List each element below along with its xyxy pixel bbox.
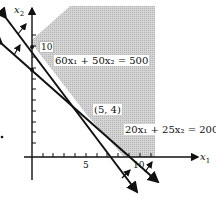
x-tick-10: 10	[133, 160, 144, 170]
vertex-label: (5, 4)	[93, 104, 122, 115]
constraint-label-1: 60x₁ + 50x₂ = 500	[54, 55, 149, 66]
lp-graph	[0, 0, 216, 198]
y-tick-10: 10	[39, 41, 54, 53]
x-tick-5: 5	[83, 160, 89, 170]
constraint-label-2: 20x₁ + 25x₂ = 200	[124, 124, 216, 135]
y-axis-label: x2	[14, 4, 24, 18]
x-axis-label: x1	[200, 151, 210, 165]
